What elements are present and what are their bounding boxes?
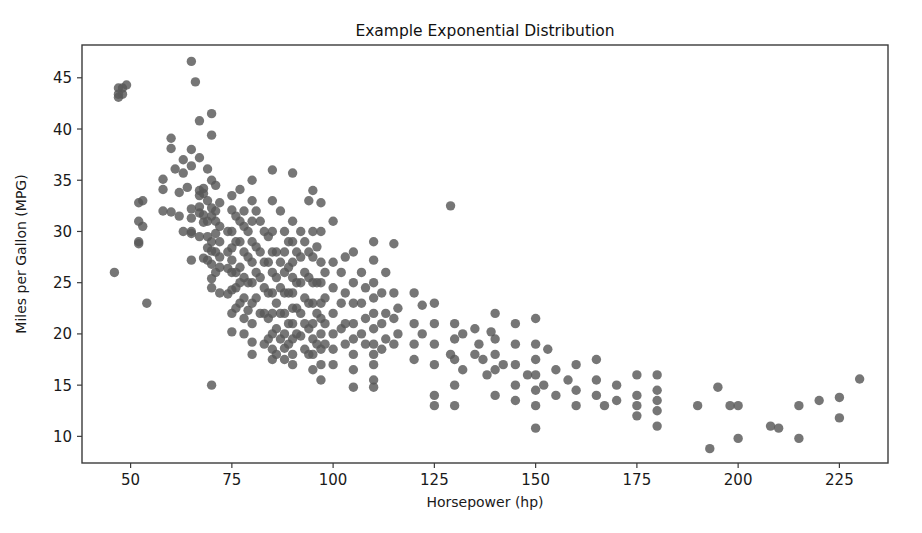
data-point	[272, 324, 281, 333]
data-point	[288, 237, 297, 246]
data-point	[543, 345, 552, 354]
data-point	[349, 247, 358, 256]
data-point	[215, 198, 224, 207]
data-point	[268, 309, 277, 318]
data-point	[207, 130, 216, 139]
data-point	[247, 217, 256, 226]
data-point	[531, 314, 540, 323]
data-point	[288, 217, 297, 226]
data-point	[478, 355, 487, 364]
data-point	[389, 314, 398, 323]
figure-canvas: Example Exponential Distribution 5075100…	[0, 0, 922, 533]
data-point	[523, 370, 532, 379]
x-tick-label: 225	[825, 471, 854, 489]
data-point	[272, 273, 281, 282]
data-point	[328, 329, 337, 338]
data-point	[531, 423, 540, 432]
data-point	[227, 327, 236, 336]
y-tick-label: 20	[53, 325, 72, 343]
data-point	[280, 329, 289, 338]
data-point	[571, 386, 580, 395]
plot-background	[0, 0, 922, 533]
data-point	[134, 239, 143, 248]
data-point	[166, 144, 175, 153]
data-point	[855, 374, 864, 383]
data-point	[450, 401, 459, 410]
data-point	[215, 222, 224, 231]
data-point	[774, 423, 783, 432]
data-point	[430, 401, 439, 410]
x-tick-label: 150	[521, 471, 550, 489]
data-point	[369, 237, 378, 246]
data-point	[264, 258, 273, 267]
data-point	[276, 206, 285, 215]
data-point	[239, 206, 248, 215]
data-point	[430, 339, 439, 348]
data-point	[207, 283, 216, 292]
data-point	[251, 206, 260, 215]
data-point	[592, 391, 601, 400]
data-point	[458, 365, 467, 374]
data-point	[235, 237, 244, 246]
data-point	[369, 255, 378, 264]
data-point	[280, 309, 289, 318]
data-point	[450, 334, 459, 343]
data-point	[446, 201, 455, 210]
data-point	[632, 401, 641, 410]
data-point	[361, 314, 370, 323]
data-point	[357, 268, 366, 277]
data-point	[693, 401, 702, 410]
data-point	[316, 258, 325, 267]
data-point	[490, 391, 499, 400]
data-point	[389, 239, 398, 248]
data-point	[328, 309, 337, 318]
data-point	[296, 252, 305, 261]
data-point	[247, 196, 256, 205]
data-point	[337, 268, 346, 277]
data-point	[320, 268, 329, 277]
data-point	[256, 273, 265, 282]
data-point	[158, 175, 167, 184]
data-point	[158, 206, 167, 215]
data-point	[142, 298, 151, 307]
data-point	[418, 329, 427, 338]
data-point	[280, 247, 289, 256]
data-point	[511, 339, 520, 348]
data-point	[179, 168, 188, 177]
data-point	[227, 255, 236, 264]
data-point	[170, 164, 179, 173]
data-point	[490, 350, 499, 359]
y-tick-label: 40	[53, 121, 72, 139]
data-point	[183, 183, 192, 192]
data-point	[276, 258, 285, 267]
data-point	[227, 227, 236, 236]
data-point	[272, 247, 281, 256]
data-point	[308, 186, 317, 195]
data-point	[490, 309, 499, 318]
data-point	[166, 207, 175, 216]
data-point	[243, 227, 252, 236]
data-point	[187, 213, 196, 222]
data-point	[458, 329, 467, 338]
data-point	[652, 421, 661, 430]
data-point	[308, 319, 317, 328]
data-point	[794, 434, 803, 443]
scatter-plot: Example Exponential Distribution 5075100…	[0, 0, 922, 533]
data-point	[138, 196, 147, 205]
data-point	[288, 168, 297, 177]
data-point	[187, 204, 196, 213]
data-point	[316, 329, 325, 338]
data-point	[235, 185, 244, 194]
data-point	[369, 339, 378, 348]
data-point	[268, 196, 277, 205]
data-point	[272, 350, 281, 359]
data-point	[349, 365, 358, 374]
data-point	[328, 217, 337, 226]
data-point	[377, 345, 386, 354]
data-point	[470, 324, 479, 333]
data-point	[239, 314, 248, 323]
data-point	[733, 401, 742, 410]
data-point	[239, 293, 248, 302]
data-point	[328, 283, 337, 292]
data-point	[158, 185, 167, 194]
